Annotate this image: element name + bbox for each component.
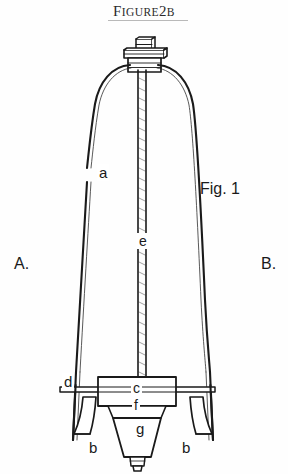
- left-bell-foot: [74, 397, 96, 434]
- cone-tip: [130, 457, 145, 471]
- callout-label-a: a: [97, 164, 109, 181]
- callout-label-g: g: [134, 421, 146, 436]
- figure-page: FIGURE2B: [0, 0, 288, 474]
- top-flange: [124, 48, 167, 58]
- callout-label-e: e: [136, 233, 150, 249]
- central-threaded-rod: [138, 70, 146, 378]
- callout-label-c: c: [131, 381, 142, 395]
- figure-number-label: Fig. 1: [200, 181, 240, 197]
- view-label-left: A.: [14, 256, 29, 272]
- right-bell-foot: [190, 397, 212, 434]
- callout-label-b-left: b: [87, 440, 99, 455]
- callout-label-d: d: [62, 373, 74, 390]
- callout-label-f: f: [132, 398, 140, 412]
- view-label-right: B.: [261, 256, 276, 272]
- callout-label-b-right: b: [180, 440, 192, 455]
- hex-nut: [128, 58, 161, 72]
